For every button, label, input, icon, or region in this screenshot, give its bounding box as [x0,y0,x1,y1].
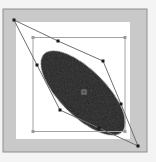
transform-handle-top-right[interactable] [102,60,105,63]
transform-handle-top-left[interactable] [13,19,16,22]
bbox-corner-handle-tl[interactable] [32,36,35,39]
transform-handle-bottom[interactable] [98,127,101,130]
canvas-svg[interactable] [0,0,156,162]
drawing-canvas[interactable] [0,0,156,162]
bbox-corner-handle-bl[interactable] [32,130,35,133]
bbox-corner-handle-tr[interactable] [124,36,127,39]
transform-handle-top[interactable] [57,40,60,43]
transform-handle-bottom-left[interactable] [59,109,62,112]
transform-handle-bottom-right[interactable] [137,145,140,148]
bbox-corner-handle-br[interactable] [124,130,127,133]
transform-handle-left[interactable] [36,64,39,67]
transform-handle-right[interactable] [120,103,123,106]
